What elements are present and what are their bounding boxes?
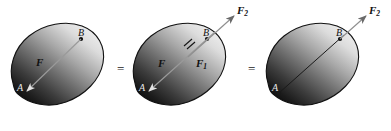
point-label-a-1: A [17,83,23,93]
point-label-a-2: A [139,83,145,93]
force-vector-f2-3 [340,16,366,39]
point-label-b-3: B [336,28,342,38]
equals-sign-2: = [248,62,255,75]
point-label-a-3: A [272,83,278,93]
equals-sign-1: = [117,62,124,75]
figure-3 [266,16,366,105]
force-label-f1-2: F1 [196,58,207,69]
force-label-f-2: F [158,58,165,69]
figure-2 [133,16,234,105]
point-label-b-1: B [78,28,84,38]
force-label-f2-2: F2 [237,5,248,16]
force-label-f-1: F [36,57,43,68]
transmissibility-diagram: = = A B F A B F F1 F2 A B F2 [0,0,391,131]
point-label-b-2: B [203,28,209,38]
force-label-f2-3: F2 [369,5,380,16]
figure-1 [11,23,103,105]
